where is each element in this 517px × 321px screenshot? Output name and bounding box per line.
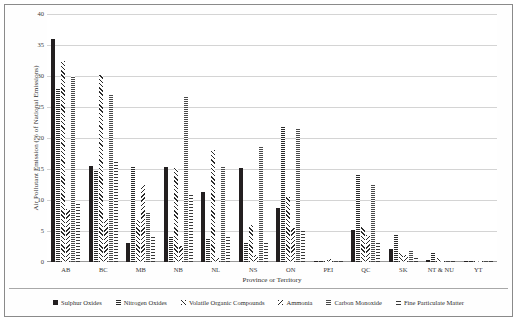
bar-group bbox=[351, 14, 380, 262]
bar-group bbox=[164, 14, 193, 262]
bar bbox=[56, 88, 60, 262]
legend-swatch-icon bbox=[116, 300, 121, 305]
legend-swatch-icon bbox=[53, 300, 58, 305]
bar bbox=[351, 230, 355, 262]
y-tick-label: 10 bbox=[6, 197, 44, 204]
bar bbox=[441, 261, 445, 262]
bar bbox=[71, 76, 75, 262]
bar bbox=[339, 260, 343, 262]
bar bbox=[244, 242, 248, 262]
legend-label: Fine Particulate Matter bbox=[404, 299, 464, 306]
y-tick-label: 15 bbox=[6, 166, 44, 173]
bar bbox=[366, 235, 370, 262]
y-tick-label: 30 bbox=[6, 73, 44, 80]
bar bbox=[184, 96, 188, 262]
legend-swatch-icon bbox=[326, 300, 331, 305]
y-tick-label: 20 bbox=[6, 135, 44, 142]
bar bbox=[376, 243, 380, 262]
bar bbox=[151, 235, 155, 262]
bar bbox=[319, 260, 323, 262]
bar bbox=[179, 246, 183, 262]
legend-item[interactable]: Ammonia bbox=[278, 299, 312, 306]
legend-item[interactable]: Carbon Monoxide bbox=[326, 299, 381, 306]
bar bbox=[76, 204, 80, 262]
bar bbox=[446, 260, 450, 262]
legend-item[interactable]: Volatile Organic Compounds bbox=[181, 299, 265, 306]
y-tick-label: 0 bbox=[6, 259, 44, 266]
bar bbox=[489, 261, 493, 262]
bar bbox=[61, 61, 65, 262]
legend-label: Carbon Monoxide bbox=[334, 299, 381, 306]
bar-group bbox=[201, 14, 230, 262]
bar bbox=[451, 261, 455, 262]
bar bbox=[136, 220, 140, 262]
bar bbox=[436, 258, 440, 262]
bar bbox=[474, 261, 478, 262]
bar bbox=[206, 238, 210, 262]
bar bbox=[389, 249, 393, 262]
bar bbox=[114, 162, 118, 262]
y-tick-label: 40 bbox=[6, 11, 44, 18]
bar bbox=[189, 195, 193, 262]
bar bbox=[66, 209, 70, 262]
bar bbox=[276, 208, 280, 262]
y-tick-label: 35 bbox=[6, 42, 44, 49]
bar bbox=[324, 260, 328, 262]
legend-label: Volatile Organic Compounds bbox=[189, 299, 265, 306]
bar bbox=[296, 129, 300, 262]
bar bbox=[109, 94, 113, 262]
y-tick-label: 5 bbox=[6, 228, 44, 235]
bar bbox=[226, 236, 230, 262]
legend-swatch-icon bbox=[396, 300, 401, 305]
bar bbox=[404, 255, 408, 262]
bar bbox=[94, 171, 98, 262]
bar bbox=[211, 150, 215, 262]
legend-item[interactable]: Sulphur Oxides bbox=[53, 299, 102, 306]
bar bbox=[126, 243, 130, 262]
bar bbox=[329, 259, 333, 262]
bar bbox=[361, 227, 365, 262]
bar bbox=[334, 260, 338, 262]
legend-swatch-icon bbox=[181, 300, 186, 305]
legend-label: Nitrogen Oxides bbox=[124, 299, 167, 306]
bar bbox=[141, 185, 145, 262]
bar bbox=[216, 258, 220, 262]
plot-area bbox=[47, 14, 497, 262]
bar bbox=[409, 251, 413, 262]
bar bbox=[89, 166, 93, 262]
bar bbox=[464, 261, 468, 262]
bar bbox=[484, 261, 488, 262]
bar-group bbox=[389, 14, 418, 262]
bar-groups bbox=[47, 14, 497, 262]
bar bbox=[431, 253, 435, 262]
bar bbox=[371, 185, 375, 262]
bar-group bbox=[426, 14, 455, 262]
y-axis-tick-labels: 0510152025303540 bbox=[0, 14, 44, 262]
bar bbox=[164, 167, 168, 262]
bar bbox=[264, 241, 268, 262]
bar bbox=[99, 75, 103, 262]
bar bbox=[131, 167, 135, 262]
legend-item[interactable]: Nitrogen Oxides bbox=[116, 299, 167, 306]
bar bbox=[291, 228, 295, 262]
bar-group bbox=[126, 14, 155, 262]
bar bbox=[169, 237, 173, 262]
bar bbox=[399, 253, 403, 262]
bar-group bbox=[89, 14, 118, 262]
bar-group bbox=[276, 14, 305, 262]
bar bbox=[469, 261, 473, 262]
legend-item[interactable]: Fine Particulate Matter bbox=[396, 299, 464, 306]
bar bbox=[146, 212, 150, 262]
bar bbox=[104, 219, 108, 262]
bar bbox=[286, 197, 290, 262]
chart-figure: Air Pollutant Emission (% of National Em… bbox=[0, 0, 517, 321]
chart-legend: Sulphur OxidesNitrogen OxidesVolatile Or… bbox=[9, 288, 508, 312]
bar bbox=[301, 229, 305, 262]
bar bbox=[314, 261, 318, 262]
bar bbox=[239, 168, 243, 262]
bar bbox=[479, 261, 483, 262]
bar bbox=[356, 175, 360, 262]
legend-swatch-icon bbox=[278, 300, 283, 305]
bar bbox=[249, 225, 253, 262]
bar bbox=[414, 256, 418, 262]
